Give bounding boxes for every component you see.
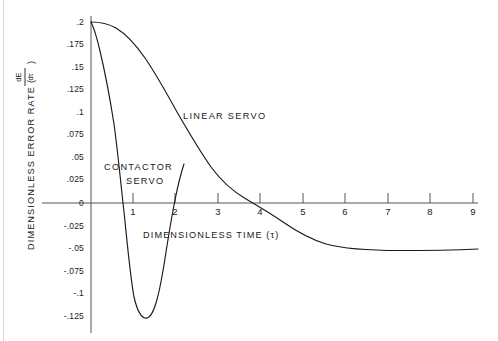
x-axis-title: DIMENSIONLESS TIME (τ): [143, 230, 279, 240]
y-tick-label: -.1: [73, 288, 84, 298]
x-tick-labels: 1 2 3 4 5 6 7 8 9: [130, 206, 475, 217]
y-tick-label: 0: [79, 198, 84, 208]
x-tick-label: 8: [427, 206, 432, 217]
x-tick-marks: [133, 193, 473, 203]
y-tick-label: -.125: [64, 311, 84, 321]
series-linear-servo: [91, 22, 478, 251]
y-tick-label: .15: [72, 62, 84, 72]
figure-contactor-vs-linear-servo: 1 2 3 4 5 6 7 8 9 .2 .175 .15 .125 .1 .0…: [0, 0, 498, 341]
x-tick-label: 5: [300, 206, 305, 217]
annotation-contactor-servo-line1: CONTACTOR: [104, 162, 173, 172]
annotation-linear-servo: LINEAR SERVO: [183, 111, 266, 121]
y-tick-label: -.05: [69, 243, 85, 253]
y-axis-title-paren-close: ): [26, 60, 36, 64]
x-tick-label: 3: [215, 206, 220, 217]
y-axis-title-text: DIMENSIONLESS ERROR RATE: [26, 86, 36, 250]
y-tick-label: .175: [67, 39, 84, 49]
y-tick-label: .125: [67, 84, 84, 94]
chart-canvas: 1 2 3 4 5 6 7 8 9 .2 .175 .15 .125 .1 .0…: [0, 0, 498, 341]
y-tick-labels: .2 .175 .15 .125 .1 .075 .05 .025 0 -.02…: [64, 17, 84, 321]
y-tick-label: -.075: [64, 266, 84, 276]
y-axis-title-denominator: dτ: [26, 73, 35, 80]
y-tick-label: -.025: [64, 221, 84, 231]
y-tick-label: .025: [67, 174, 84, 184]
y-axis-title: DIMENSIONLESS ERROR RATE ( dE dτ ): [14, 60, 36, 250]
x-tick-label: 9: [470, 206, 475, 217]
y-tick-label: .05: [72, 152, 84, 162]
y-tick-label: .075: [67, 129, 84, 139]
y-axis-title-numerator: dE: [14, 72, 23, 81]
x-tick-label: 1: [130, 206, 135, 217]
x-tick-label: 7: [385, 206, 390, 217]
annotation-contactor-servo-line2: SERVO: [126, 176, 165, 186]
y-tick-label: .2: [77, 17, 85, 27]
x-tick-label: 6: [342, 206, 347, 217]
y-tick-label: .1: [77, 107, 85, 117]
